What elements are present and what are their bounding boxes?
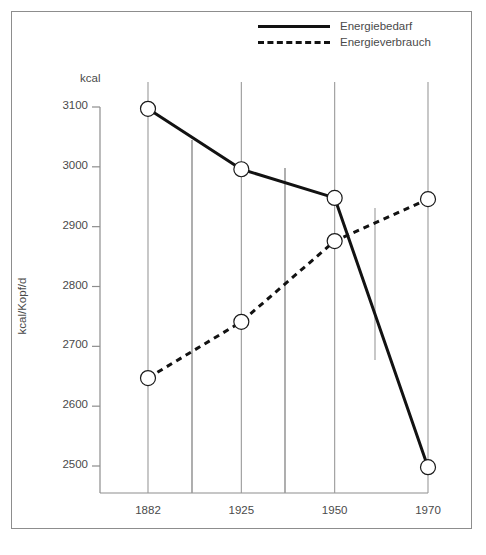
y-tick-label-2700: 2700 (44, 338, 88, 350)
legend-label-energiebedarf: Energiebedarf (340, 18, 412, 34)
legend-swatch-solid-line (258, 25, 330, 28)
y-tick-label-2800: 2800 (44, 279, 88, 291)
legend-swatch-dashed-line (258, 41, 330, 44)
y-tick-label-2600: 2600 (44, 398, 88, 410)
chart-legend: Energiebedarf Energieverbrauch (258, 18, 468, 50)
y-tick-label-2900: 2900 (44, 219, 88, 231)
chart-frame (11, 11, 472, 529)
x-tick-label-1882: 1882 (123, 504, 173, 516)
x-tick-label-1950: 1950 (310, 504, 360, 516)
y-axis-unit-note: kcal (80, 72, 100, 84)
chart-figure: Energiebedarf Energieverbrauch kcal kcal… (0, 0, 486, 555)
y-tick-label-3100: 3100 (44, 99, 88, 111)
x-tick-label-1970: 1970 (403, 504, 453, 516)
y-tick-label-3000: 3000 (44, 159, 88, 171)
y-axis-title: kcal/Kopf/d (16, 258, 28, 354)
legend-item-energieverbrauch: Energieverbrauch (258, 34, 468, 50)
y-tick-label-2500: 2500 (44, 458, 88, 470)
x-tick-label-1925: 1925 (216, 504, 266, 516)
legend-item-energiebedarf: Energiebedarf (258, 18, 468, 34)
legend-label-energieverbrauch: Energieverbrauch (340, 34, 431, 50)
